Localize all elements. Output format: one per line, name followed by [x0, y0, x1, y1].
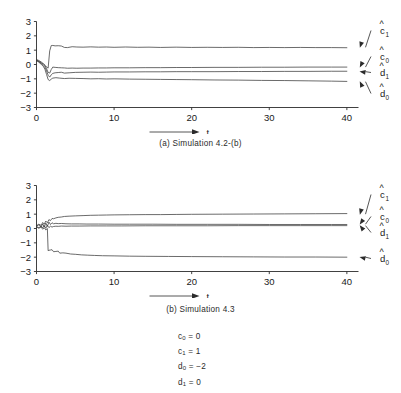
y-tick-label: 2 — [26, 30, 31, 41]
curve-label-d1hat: d — [380, 67, 385, 78]
parameter-value: 0 — [196, 332, 201, 341]
y-tick-label: 2 — [26, 194, 31, 205]
chart-panel-b: −3−2−10123010203040t^c1^c0^d1^d0 — [0, 168, 401, 298]
y-tick-label: −2 — [20, 252, 31, 263]
annotation-arrowhead-d0hat — [360, 256, 366, 261]
x-tick-label: 10 — [109, 276, 120, 287]
annotation-leader-c0hat — [366, 57, 372, 68]
parameter-row: d1 = 0 — [178, 376, 206, 391]
parameter-value: −2 — [196, 362, 206, 371]
chart-(b) Simulation 4.3: −3−2−10123010203040t^c1^c0^d1^d0 — [20, 180, 389, 298]
parameter-equals: = — [186, 347, 196, 356]
x-tick-label: 0 — [34, 276, 39, 287]
axis-lines — [37, 22, 359, 108]
x-tick-label: 20 — [186, 276, 197, 287]
x-tick-label: 30 — [264, 276, 275, 287]
curve-label-subscript-c1hat: 1 — [386, 31, 390, 38]
curve-d0hat — [37, 227, 347, 257]
annotation-leader-d0hat — [366, 82, 372, 94]
curve-d0hat — [37, 60, 347, 81]
y-tick-label: 1 — [26, 209, 31, 220]
annotation-arrowhead-c1hat — [359, 208, 364, 214]
parameter-list: c0 = 0c1 = 1d0 = −2d1 = 0 — [178, 330, 206, 391]
y-tick-label: 0 — [26, 223, 31, 234]
curve-label-subscript-c1hat: 1 — [386, 195, 390, 202]
y-tick-label: 0 — [26, 59, 31, 70]
parameter-row: c1 = 1 — [178, 345, 206, 360]
parameter-value: 0 — [196, 378, 201, 387]
y-tick-label: −3 — [20, 266, 31, 277]
chart-(a) Simulation 4.2-(b): −3−2−10123010203040t^c1^c0^d1^d0 — [20, 16, 389, 134]
curve-label-d1hat: d — [380, 227, 385, 238]
parameter-equals: = — [186, 378, 196, 387]
curve-label-c1hat: c — [380, 189, 385, 200]
parameter-value: 1 — [196, 347, 201, 356]
x-tick-label: 0 — [34, 112, 39, 123]
curve-label-d0hat: d — [380, 88, 385, 99]
curve-label-d0hat: d — [380, 253, 385, 264]
annotation-arrowhead-c0hat — [360, 61, 365, 67]
axis-lines — [37, 186, 359, 272]
annotation-leader-c1hat — [366, 31, 372, 48]
curve-d1hat — [37, 60, 347, 77]
curve-label-subscript-c0hat: 0 — [386, 57, 390, 64]
x-tick-label: 20 — [186, 112, 197, 123]
annotation-leader-c1hat — [366, 195, 372, 215]
annotation-leader-d1hat — [366, 72, 372, 73]
annotation-arrowhead-c1hat — [359, 41, 364, 47]
y-tick-label: 1 — [26, 45, 31, 56]
x-tick-label: 10 — [109, 112, 120, 123]
curve-label-subscript-c0hat: 0 — [386, 217, 390, 224]
caption-panel-b: (b) Simulation 4.3 — [0, 305, 401, 314]
annotation-arrowhead-d1hat — [360, 70, 366, 75]
parameter-equals: = — [186, 362, 196, 371]
annotation-arrowhead-d0hat — [360, 81, 365, 87]
curve-label-subscript-d0hat: 0 — [386, 259, 390, 266]
curve-c1hat — [37, 45, 347, 68]
x-axis-arrowhead — [192, 293, 200, 298]
chart-panel-a: −3−2−10123010203040t^c1^c0^d1^d0 — [0, 4, 401, 134]
x-axis-label: t — [207, 127, 210, 135]
caption-panel-a: (a) Simulation 4.2-(b) — [0, 139, 401, 148]
figure-container: −3−2−10123010203040t^c1^c0^d1^d0 (a) Sim… — [0, 0, 401, 393]
curve-label-c1hat: c — [380, 25, 385, 36]
x-tick-label: 40 — [342, 276, 353, 287]
curve-d1hat — [37, 225, 347, 228]
curve-label-subscript-d1hat: 1 — [386, 73, 390, 80]
plot-a: −3−2−10123010203040t^c1^c0^d1^d0 — [0, 4, 401, 134]
annotation-arrowhead-c0hat — [360, 218, 365, 224]
y-tick-label: −2 — [20, 88, 31, 99]
annotation-leader-c0hat — [366, 217, 372, 225]
curve-label-subscript-d0hat: 0 — [386, 94, 390, 101]
y-tick-label: −3 — [20, 102, 31, 113]
x-axis-arrowhead — [192, 129, 200, 134]
y-tick-label: 3 — [26, 16, 31, 27]
curve-label-subscript-d1hat: 1 — [386, 233, 390, 240]
parameter-row: c0 = 0 — [178, 330, 206, 345]
x-tick-label: 30 — [264, 112, 275, 123]
parameter-equals: = — [186, 332, 196, 341]
y-tick-label: 3 — [26, 180, 31, 191]
annotation-leader-d1hat — [366, 226, 372, 233]
parameter-row: d0 = −2 — [178, 360, 206, 375]
plot-b: −3−2−10123010203040t^c1^c0^d1^d0 — [0, 168, 401, 298]
x-axis-label: t — [207, 291, 210, 299]
annotation-arrowhead-d1hat — [360, 225, 366, 231]
y-tick-label: −1 — [20, 73, 31, 84]
annotation-leader-d0hat — [366, 257, 372, 258]
y-tick-label: −1 — [20, 237, 31, 248]
x-tick-label: 40 — [342, 112, 353, 123]
